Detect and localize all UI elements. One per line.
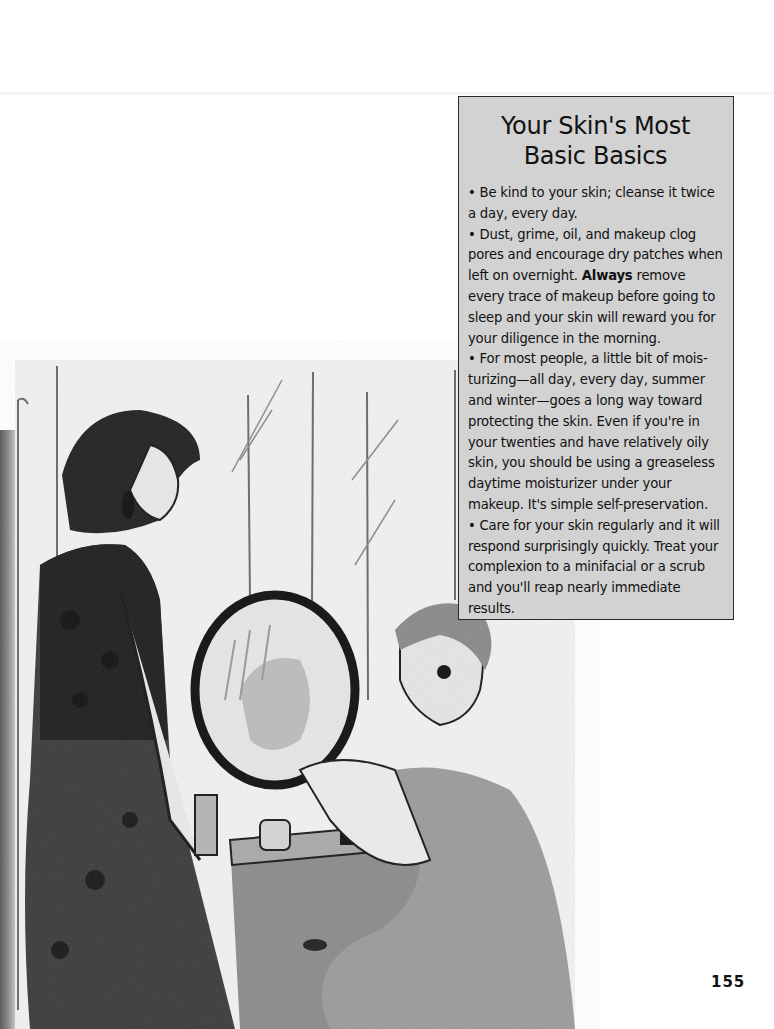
tip-text: For most people, a little bit of mois-tu…	[468, 351, 715, 512]
sidebar-title: Your Skin's Most Basic Basics	[468, 111, 723, 171]
bullet-icon: •	[468, 185, 476, 200]
tip-item: •Care for your skin regularly and it wil…	[468, 516, 723, 620]
bullet-icon: •	[468, 227, 476, 242]
bullet-icon: •	[468, 518, 476, 533]
tip-text: Care for your skin regularly and it will…	[468, 518, 720, 616]
page-number: 155	[711, 973, 745, 991]
tip-emphasis: Always	[582, 268, 633, 283]
tip-text: Be kind to your skin; cleanse it twice a…	[468, 185, 715, 221]
bullet-icon: •	[468, 351, 476, 366]
tip-item: •Dust, grime, oil, and makeup clog pores…	[468, 225, 723, 350]
tip-item: •Be kind to your skin; cleanse it twice …	[468, 183, 723, 225]
tip-item: •For most people, a little bit of mois-t…	[468, 349, 723, 515]
tips-list: •Be kind to your skin; cleanse it twice …	[468, 183, 723, 620]
tips-sidebar-box: Your Skin's Most Basic Basics •Be kind t…	[458, 96, 734, 620]
